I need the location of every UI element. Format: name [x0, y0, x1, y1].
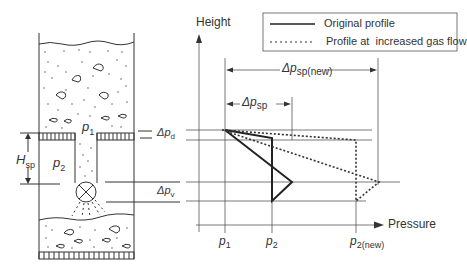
increased-flow-series	[222, 130, 379, 201]
delta-psp-new-label: Δpsp(new)	[282, 61, 332, 77]
tick-p1: p1	[219, 234, 231, 250]
x-axis-arrowhead	[374, 222, 384, 229]
arrowhead-right-psp	[284, 102, 291, 107]
x-axis-label: Pressure	[388, 217, 436, 231]
arrowhead-left-psp-new	[226, 68, 233, 73]
original-profile-series	[225, 130, 292, 201]
y-axis-arrowhead	[196, 34, 202, 43]
y-axis-label: Height	[196, 15, 231, 29]
legend-increased-label: Profile at increased gas flow	[326, 35, 467, 47]
arrowhead-left-psp	[226, 102, 233, 107]
arrowhead-right-psp-new	[370, 68, 377, 73]
tick-p2-new: p2(new)	[350, 234, 384, 250]
legend-original-label: Original profile	[324, 17, 395, 29]
tick-p2: p2	[266, 234, 278, 250]
delta-psp-label: Δpsp	[242, 95, 267, 111]
